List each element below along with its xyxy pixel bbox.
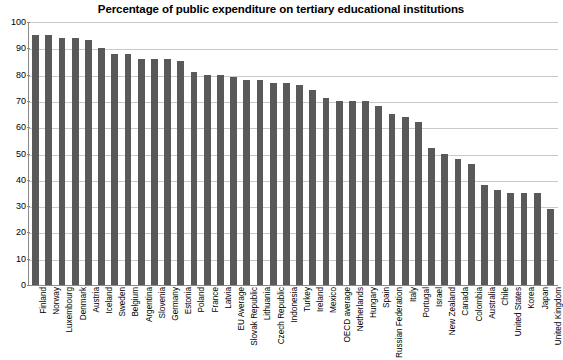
x-tick-label: Argentina [145, 287, 154, 324]
x-tick-label-text: Korea [527, 287, 536, 311]
x-tick-label: Czech Republic [277, 287, 286, 346]
x-tick-label-text: Iceland [105, 287, 114, 315]
bar [402, 117, 409, 285]
x-tick-label: Slovenia [158, 287, 167, 320]
bar [428, 148, 435, 285]
x-tick-label-text: Russian Federation [395, 287, 404, 360]
x-tick-label: Italy [409, 287, 418, 304]
x-tick-label: Norway [52, 287, 61, 317]
bar [534, 193, 541, 285]
bar [98, 48, 105, 285]
bar [32, 35, 39, 285]
y-tick-label: 100 [2, 17, 26, 27]
bar [111, 54, 118, 285]
bar [257, 80, 264, 285]
bar [336, 101, 343, 285]
bar [349, 101, 356, 285]
chart-title: Percentage of public expenditure on tert… [0, 3, 562, 15]
x-tick-label: Belgium [131, 287, 140, 319]
x-tick-label: Turkey [303, 287, 312, 314]
bar [85, 40, 92, 285]
x-tick-label-text: Turkey [303, 287, 312, 314]
bar [191, 72, 198, 285]
bar [296, 85, 303, 285]
x-tick-label-text: Sweden [118, 287, 127, 319]
x-tick-label: Finland [39, 287, 48, 316]
x-tick-label: Israel [435, 287, 444, 309]
bar [468, 164, 475, 285]
x-tick-label-text: Czech Republic [277, 287, 286, 346]
y-tick-label: 80 [2, 70, 26, 80]
x-axis-labels: FinlandNorwayLuxembourgDenmarkAustriaIce… [29, 287, 557, 350]
x-tick-label-text: Italy [409, 287, 418, 304]
x-tick-label-text: Hungary [369, 287, 378, 320]
x-tick-label-text: Slovenia [158, 287, 167, 320]
x-tick-label: Russian Federation [395, 287, 404, 360]
bar [441, 154, 448, 286]
x-tick-label: Germany [171, 287, 180, 323]
x-tick-label-text: United States [514, 287, 523, 338]
bar [389, 114, 396, 285]
x-tick-label-text: Ireland [316, 287, 325, 314]
x-tick-label: EU Average [237, 287, 246, 333]
bar [521, 193, 528, 285]
x-tick-label: Portugal [422, 287, 431, 320]
bar [375, 106, 382, 285]
x-tick-label-text: Netherlands [356, 287, 365, 333]
bar [177, 61, 184, 285]
x-tick-label: Spain [382, 287, 391, 310]
bar [323, 98, 330, 285]
x-tick-label: United States [514, 287, 523, 338]
x-tick-label: Estonia [184, 287, 193, 316]
x-tick-label-text: United Kingdom [554, 287, 563, 347]
y-axis: 0102030405060708090100 [0, 22, 26, 286]
y-tick-label: 10 [2, 254, 26, 264]
y-tick-label: 90 [2, 43, 26, 53]
y-tick-label: 60 [2, 122, 26, 132]
x-tick-label: Sweden [118, 287, 127, 319]
bar [455, 159, 462, 285]
x-tick-label-text: Denmark [79, 287, 88, 322]
y-tick-label: 0 [2, 280, 26, 290]
x-tick-label: Canada [461, 287, 470, 318]
x-tick-label: Indonesia [290, 287, 299, 325]
x-tick-label-text: EU Average [237, 287, 246, 333]
y-tick-label: 30 [2, 201, 26, 211]
x-tick-label-text: Finland [39, 287, 48, 316]
x-tick-label: Iceland [105, 287, 114, 315]
x-tick-label: Luxembourg [65, 287, 74, 335]
x-tick-label-text: Mexico [329, 287, 338, 315]
y-tick-label: 50 [2, 149, 26, 159]
bar [283, 83, 290, 286]
y-tick-label: 40 [2, 175, 26, 185]
x-tick-label: Denmark [79, 287, 88, 322]
x-tick-label-text: Chile [501, 287, 510, 308]
x-tick-label-text: Luxembourg [65, 287, 74, 335]
bar [494, 190, 501, 285]
x-tick-label-text: Japan [541, 287, 550, 311]
x-tick-label: Chile [501, 287, 510, 308]
x-tick-label-text: Indonesia [290, 287, 299, 325]
bar [59, 38, 66, 285]
x-tick-label: Austria [92, 287, 101, 314]
x-tick-label: Japan [541, 287, 550, 311]
x-tick-label: Slovak Republic [250, 287, 259, 348]
x-tick-label-text: New Zealand [448, 287, 457, 337]
x-tick-label-text: Germany [171, 287, 180, 323]
x-tick-label: OECD average [343, 287, 352, 345]
bar [362, 101, 369, 285]
x-tick-label-text: Canada [461, 287, 470, 318]
bar [547, 209, 554, 285]
x-tick-label: United Kingdom [554, 287, 563, 347]
x-tick-label-text: Latvia [224, 287, 233, 311]
bar [164, 59, 171, 285]
x-tick-label: Mexico [329, 287, 338, 315]
x-tick-label-text: Israel [435, 287, 444, 309]
x-tick-label-text: Spain [382, 287, 391, 310]
x-tick-label-text: Portugal [422, 287, 431, 320]
bar [270, 83, 277, 286]
x-tick-label: Lithuania [263, 287, 272, 322]
y-tick-label: 20 [2, 227, 26, 237]
bar [481, 185, 488, 285]
